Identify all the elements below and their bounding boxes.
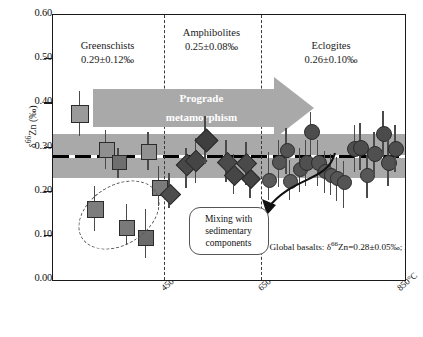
- data-point-circle: [376, 126, 392, 142]
- y-tick-mark: [44, 191, 52, 192]
- y-tick-label: 0.50: [18, 52, 52, 62]
- data-point-circle: [304, 124, 320, 140]
- y-tick-mark: [44, 147, 52, 148]
- mixing-callout: Mixing with sedimentary components: [189, 207, 269, 255]
- basalt-note-superscript: 66: [331, 240, 338, 248]
- data-point-diamond: [194, 129, 218, 153]
- y-tick-label: 0.10: [18, 229, 52, 239]
- y-tick-mark: [44, 235, 52, 236]
- global-basalt-note: Global basalts: δ66Zn=0.28±0.05‰; 2SD: [269, 240, 406, 252]
- data-point-square: [112, 155, 127, 170]
- data-point-circle: [388, 141, 404, 157]
- y-tick-label: 0.30: [18, 141, 52, 151]
- basalt-note-prefix: Global basalts:: [269, 242, 326, 252]
- basalt-note-suffix: Zn=0.28±0.05‰; 2SD: [338, 242, 406, 252]
- y-tick-mark: [44, 102, 52, 103]
- y-tick-label: 0.40: [18, 96, 52, 106]
- y-tick-label: 0.60: [18, 8, 52, 18]
- y-tick-label: 0.20: [18, 185, 52, 195]
- mixing-callout-label: Mixing with sedimentary components: [194, 213, 264, 249]
- y-tick-mark: [44, 58, 52, 59]
- data-point-square: [141, 144, 157, 160]
- figure-root: δ66Zn (‰) 0.600.500.400.300.200.100.00 4…: [0, 0, 423, 337]
- x-axis-ticks: 450°C650°C850°C: [0, 279, 423, 337]
- data-point-square: [71, 105, 89, 123]
- plot-area: Prograde metamorphism Greenschists 0.29±…: [52, 14, 406, 281]
